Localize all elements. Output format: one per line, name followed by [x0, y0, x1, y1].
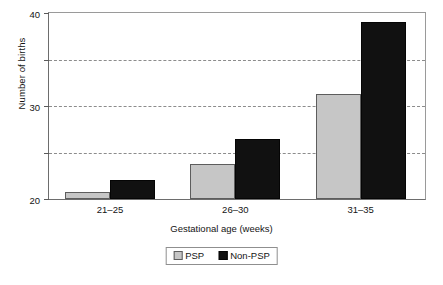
light-gray-swatch-icon	[173, 251, 182, 260]
legend-item-psp: PSP	[173, 250, 204, 261]
y-axis-title: Number of births	[16, 9, 27, 139]
x-axis-title: Gestational age (weeks)	[0, 223, 443, 234]
y-axis-tick: 0	[44, 199, 49, 200]
bar-chart-figure: Number of births 010203040 21–2526–3031–…	[0, 0, 443, 285]
y-axis-tick-label: 30	[29, 102, 40, 113]
bar-non-psp-26-30	[235, 139, 280, 199]
legend-item-non-psp: Non-PSP	[218, 250, 270, 261]
y-axis-tick-label: 40	[29, 9, 40, 20]
x-axis-tick-label: 26–30	[222, 204, 248, 215]
x-axis-tick-label: 21–25	[97, 204, 123, 215]
bar-non-psp-31-35	[361, 22, 406, 199]
plot-area: 010203040	[48, 12, 426, 200]
legend-label-non-psp: Non-PSP	[230, 250, 270, 261]
bar-psp-31-35	[316, 94, 361, 199]
legend-label-psp: PSP	[185, 250, 204, 261]
chart-legend: PSP Non-PSP	[165, 247, 278, 265]
bar-psp-21-25	[65, 192, 110, 199]
y-axis-tick-label: 20	[29, 195, 40, 206]
y-axis-tick: 20	[44, 106, 49, 107]
bar-non-psp-21-25	[110, 180, 155, 199]
y-axis-tick: 30	[44, 60, 49, 61]
bar-psp-26-30	[190, 164, 235, 199]
plot-inner: 010203040	[49, 13, 425, 199]
x-axis-tick-label: 31–35	[347, 204, 373, 215]
y-axis-tick: 10	[44, 153, 49, 154]
y-axis-tick: 40	[44, 13, 49, 14]
black-swatch-icon	[218, 251, 227, 260]
